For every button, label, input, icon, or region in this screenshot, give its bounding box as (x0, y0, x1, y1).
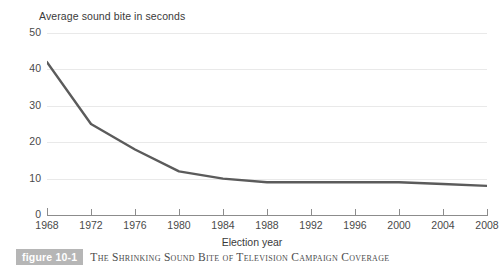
x-tick-label: 1980 (167, 219, 190, 231)
x-tick-label: 1996 (343, 219, 366, 231)
x-tick (223, 209, 224, 216)
series-line-sound-bite (47, 33, 487, 215)
x-tick (311, 209, 312, 216)
x-tick (47, 209, 48, 216)
plot-area (47, 33, 487, 215)
y-tick-label: 50 (15, 26, 41, 38)
x-tick (179, 209, 180, 216)
x-axis-title: Election year (0, 236, 504, 248)
x-tick-label: 2000 (387, 219, 410, 231)
y-tick-label: 30 (15, 99, 41, 111)
figure-caption-text: The Shrinking Sound Bite of Television C… (90, 251, 389, 263)
x-tick-label: 2008 (475, 219, 498, 231)
x-tick-label: 1988 (255, 219, 278, 231)
y-tick-label: 40 (15, 62, 41, 74)
figure-container: Average sound bite in seconds 0102030405… (0, 0, 504, 271)
x-tick (91, 209, 92, 216)
x-tick (487, 209, 488, 216)
x-tick-label: 1976 (123, 219, 146, 231)
figure-caption: figure 10-1 The Shrinking Sound Bite of … (16, 249, 389, 265)
figure-number-badge: figure 10-1 (16, 249, 83, 265)
x-tick-label: 1992 (299, 219, 322, 231)
x-tick (355, 209, 356, 216)
y-axis-tick-labels: 01020304050 (13, 33, 41, 215)
x-tick-label: 1984 (211, 219, 234, 231)
y-tick-label: 10 (15, 172, 41, 184)
y-axis-title: Average sound bite in seconds (39, 10, 185, 22)
x-tick-label: 2004 (431, 219, 454, 231)
x-tick (399, 209, 400, 216)
x-tick-label: 1972 (79, 219, 102, 231)
x-tick (135, 209, 136, 216)
x-tick (443, 209, 444, 216)
x-tick (267, 209, 268, 216)
x-tick-label: 1968 (35, 219, 58, 231)
y-tick-label: 20 (15, 135, 41, 147)
